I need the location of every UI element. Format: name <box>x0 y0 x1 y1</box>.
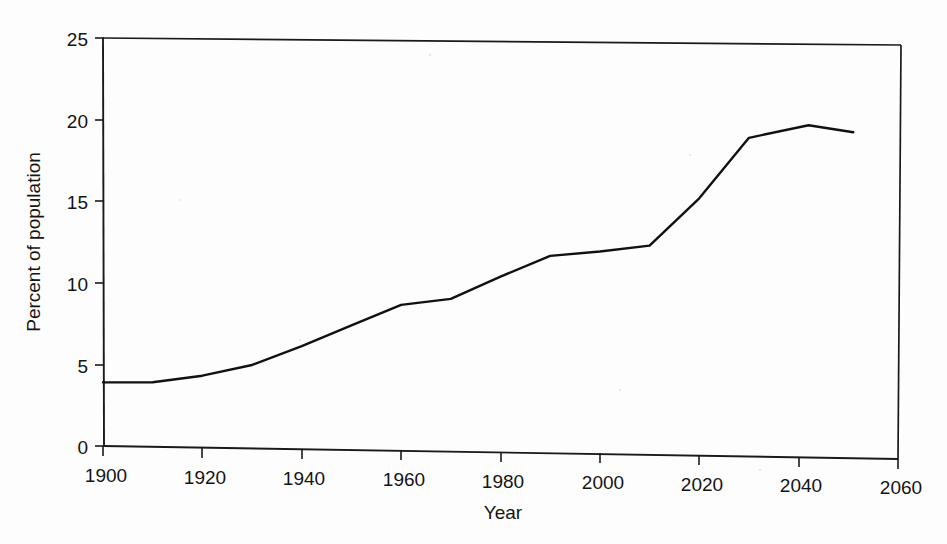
x-tick-label-1960: 1960 <box>383 469 425 490</box>
plot-frame <box>103 38 901 459</box>
y-tick-label-5: 5 <box>77 356 88 377</box>
x-tick-label-2000: 2000 <box>582 472 624 493</box>
x-tick-label-2060: 2060 <box>880 477 922 498</box>
x-tick-label-1900: 1900 <box>85 465 127 486</box>
frame-top-line <box>103 38 901 45</box>
y-tick-label-20: 20 <box>67 111 88 132</box>
y-tick-label-15: 15 <box>67 192 88 213</box>
y-tick-label-10: 10 <box>67 274 88 295</box>
y-tick-label-0: 0 <box>77 437 88 458</box>
chart-figure: 25 20 15 10 5 0 1900 1920 1940 1960 1980 <box>0 0 947 544</box>
x-tick-label-1920: 1920 <box>184 467 226 488</box>
y-axis-line <box>103 38 104 446</box>
frame-right-line <box>898 45 901 459</box>
x-axis-title: Year <box>484 502 523 523</box>
x-tick-label-2020: 2020 <box>681 474 723 495</box>
x-tick-label-1940: 1940 <box>283 468 325 489</box>
y-tick-label-25: 25 <box>67 29 88 50</box>
x-tick-labels: 1900 1920 1940 1960 1980 2000 2020 2040 … <box>85 465 922 498</box>
x-tick-label-2040: 2040 <box>780 475 822 496</box>
data-line-series <box>103 125 853 382</box>
y-axis-title: Percent of population <box>23 152 44 332</box>
line-chart: 25 20 15 10 5 0 1900 1920 1940 1960 1980 <box>0 0 947 544</box>
x-tick-label-1980: 1980 <box>482 471 524 492</box>
y-tick-labels: 25 20 15 10 5 0 <box>67 29 88 458</box>
scan-artifacts <box>179 54 761 472</box>
